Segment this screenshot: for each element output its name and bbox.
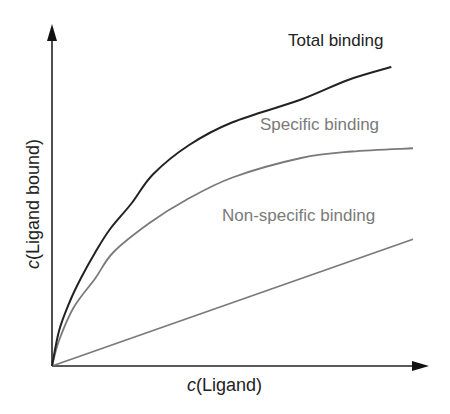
x-axis-arrow-icon [412, 361, 429, 371]
x-axis-label: c(Ligand) [187, 376, 262, 394]
y-axis-label-rest: (Ligand bound) [23, 139, 43, 260]
nonspecific-binding-label: Non-specific binding [222, 207, 375, 224]
axes [47, 24, 429, 371]
nonspecific-binding-line [52, 239, 413, 366]
y-axis-arrow-icon [47, 24, 57, 41]
x-axis-label-rest: (Ligand) [196, 375, 262, 395]
specific-binding-curve [52, 148, 413, 366]
total-binding-label: Total binding [288, 32, 383, 49]
y-axis-label: c(Ligand bound) [24, 139, 42, 269]
x-axis-label-var: c [187, 375, 196, 395]
specific-binding-label: Specific binding [260, 116, 379, 133]
y-axis-label-var: c [23, 260, 43, 269]
